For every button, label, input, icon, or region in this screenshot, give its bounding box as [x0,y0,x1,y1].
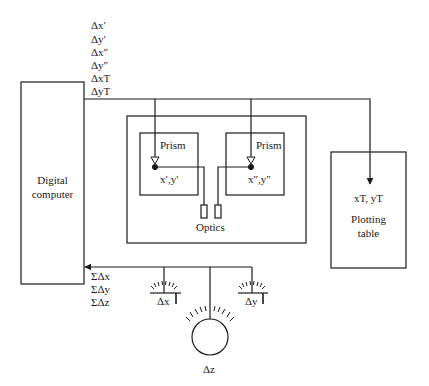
output-label-dy1: Δy′ [91,34,106,45]
output-label-dyt: ΔyT [91,86,110,97]
computer-label-line2: computer [21,187,84,201]
left-prism-mark-icon [152,164,157,169]
plotting-table-coords: xT, yT [331,193,406,204]
left-prism-title: Prism [160,140,186,151]
output-label-dy2: Δy″ [91,60,108,71]
output-label-dxt: ΔxT [91,73,110,84]
input-label-sum-dz: ΣΔz [91,297,109,308]
optics-label: Optics [196,222,225,233]
dy-handwheel-label: Δy [245,296,258,307]
right-prism-mark-icon [248,164,253,169]
computer-label-line1: Digital [21,173,84,187]
input-label-sum-dx: ΣΔx [91,271,110,282]
left-eyepiece [201,205,207,218]
dz-handwheel-label: Δz [203,364,215,375]
dx-handwheel-label: Δx [157,296,170,307]
output-label-dx1: Δx′ [91,20,106,31]
right-prism-coords: x″,y″ [248,174,271,185]
plotting-table-line2: table [331,226,406,240]
input-label-sum-dy: ΣΔy [91,284,110,295]
right-optical-path [218,167,251,205]
plotting-table-line1: Plotting [331,212,406,226]
computer-label: Digital computer [21,173,84,201]
right-prism-pointer-icon [247,157,255,164]
dz-handwheel [192,319,228,355]
left-prism-coords: x′,y′ [160,174,179,185]
output-label-dx2: Δx″ [91,47,108,58]
plotting-table-box [331,152,406,268]
right-prism-title: Prism [256,140,282,151]
right-eyepiece [215,205,221,218]
left-prism-pointer-icon [151,157,159,164]
plotting-table-label: Plotting table [331,212,406,240]
